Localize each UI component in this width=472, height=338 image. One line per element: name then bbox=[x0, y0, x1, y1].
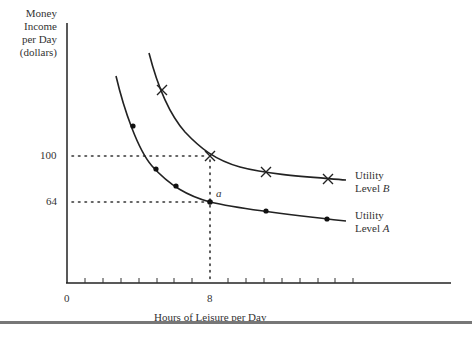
x-tick-8: 8 bbox=[207, 292, 213, 305]
chart-canvas bbox=[0, 0, 472, 338]
y-tick-64: 64 bbox=[46, 195, 57, 208]
legend-line: Utility bbox=[355, 209, 390, 222]
dot-markers-a bbox=[130, 123, 329, 221]
legend-line: Level B bbox=[355, 182, 390, 195]
legend-letter: B bbox=[383, 182, 390, 194]
dotted-guides bbox=[72, 156, 210, 283]
x-tick-0: 0 bbox=[64, 292, 70, 305]
point-a-label: a bbox=[216, 187, 222, 200]
legend-line: Utility bbox=[355, 169, 390, 182]
legend-line: Level A bbox=[355, 222, 390, 235]
utility-curve-a bbox=[116, 76, 346, 221]
x-markers-b bbox=[157, 85, 333, 184]
y-label-line: per Day bbox=[0, 33, 57, 46]
legend-text: Level bbox=[355, 182, 383, 194]
legend-utility-b: Utility Level B bbox=[355, 169, 390, 195]
y-tick-100: 100 bbox=[40, 149, 57, 162]
y-label-line: (dollars) bbox=[0, 46, 57, 59]
legend-letter: A bbox=[383, 222, 390, 234]
y-label-line: Money bbox=[0, 7, 57, 20]
legend-text: Level bbox=[355, 222, 383, 234]
bottom-rule bbox=[0, 321, 472, 324]
legend-utility-a: Utility Level A bbox=[355, 209, 390, 235]
utility-curve-b bbox=[149, 53, 346, 180]
y-label-line: Income bbox=[0, 20, 57, 33]
y-axis-label: Money Income per Day (dollars) bbox=[0, 7, 57, 59]
